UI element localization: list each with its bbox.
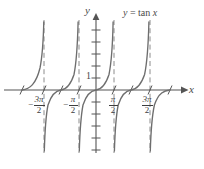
fraction-numerator: π xyxy=(110,95,117,104)
fraction-denominator: 2 xyxy=(111,106,116,115)
fraction-numerator: π xyxy=(70,95,77,104)
tangent-branch-4 xyxy=(114,22,148,151)
plot-canvas xyxy=(0,0,204,169)
equation-function-name: tan xyxy=(138,7,150,18)
minus-sign: − xyxy=(28,100,33,110)
fraction: π 2 xyxy=(69,95,78,115)
y-axis-label: y xyxy=(85,5,90,16)
x-axis-arrowhead xyxy=(181,87,189,94)
x-tick-label-neg-pi-over-2: − π 2 xyxy=(63,95,78,115)
equation-label: y = tan x xyxy=(123,8,157,18)
asymptote-group xyxy=(44,20,150,153)
equation-equals: = xyxy=(127,7,138,18)
fraction-denominator: 2 xyxy=(71,106,76,115)
x-tick-label-3pi-over-2: 3π 2 xyxy=(141,95,153,115)
fraction: 3π 2 xyxy=(34,95,45,115)
x-axis-label: x xyxy=(189,84,194,95)
tangent-branch-5 xyxy=(150,90,170,151)
minus-sign: − xyxy=(63,100,68,110)
y-axis-group xyxy=(92,13,101,153)
y-axis-unit-label: 1 xyxy=(86,71,91,81)
fraction-numerator: 3π xyxy=(34,95,45,104)
x-tick-label-neg-3pi-over-2: − 3π 2 xyxy=(28,95,45,115)
equation-variable: x xyxy=(150,7,157,18)
x-tick-label-pi-over-2: π 2 xyxy=(108,95,118,115)
fraction-denominator: 2 xyxy=(145,106,150,115)
fraction: π 2 xyxy=(109,95,118,115)
y-axis-arrowhead xyxy=(93,13,100,20)
tangent-branch-2 xyxy=(44,22,78,151)
fraction: 3π 2 xyxy=(142,95,153,115)
fraction-denominator: 2 xyxy=(37,106,42,115)
tangent-branch-1 xyxy=(22,22,44,90)
fraction-numerator: 3π xyxy=(142,95,153,104)
tangent-graph-figure: y x y = tan x 1 − 3π 2 − π 2 π 2 3π xyxy=(0,0,204,169)
